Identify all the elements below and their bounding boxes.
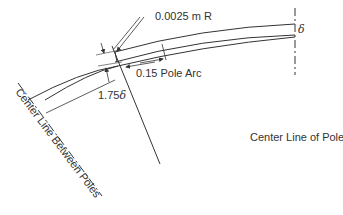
pole-arc-label: 0.15 Pole Arc [136,67,202,79]
edge-gap-arrow-top [101,43,104,53]
radius-leader-2 [113,17,140,50]
edge-gap-ext-1 [96,50,120,55]
center-line-between-poles-label: Center Line Between Poles [13,86,103,200]
pole-arc-diagram: 0.0025 m R 0.15 Pole Arc 1.75δ δ Center … [0,0,343,215]
radius-label: 0.0025 m R [155,10,212,22]
center-line-pole-label: Center Line of Pole [250,131,343,143]
edge-gap-arrow-bottom [106,68,109,82]
pole-arc-ext [162,44,166,60]
center-gap-label: δ [298,23,305,36]
radial-line-pole-edge [112,46,160,164]
edge-gap-label: 1.75δ [98,89,126,102]
pole-face-arc [115,24,295,52]
